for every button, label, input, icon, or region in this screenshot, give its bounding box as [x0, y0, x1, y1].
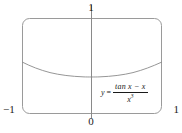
x-axis-min-label: −1	[3, 104, 15, 115]
y-axis-top-label: 1	[0, 2, 182, 13]
equation-denominator: x3	[125, 93, 135, 104]
equation-equals-sign: =	[106, 89, 114, 97]
graph-figure: 1 0 −1 1 y = tan x − x x3	[0, 0, 182, 133]
equation-numerator: tan x − x	[113, 83, 148, 92]
plot-canvas	[0, 0, 182, 133]
x-axis-max-label: 1	[174, 104, 180, 115]
equation-annotation: y = tan x − x x3	[101, 83, 148, 104]
origin-label: 0	[0, 116, 182, 127]
equation-fraction: tan x − x x3	[113, 83, 148, 104]
equation-denominator-exponent: 3	[131, 93, 134, 99]
